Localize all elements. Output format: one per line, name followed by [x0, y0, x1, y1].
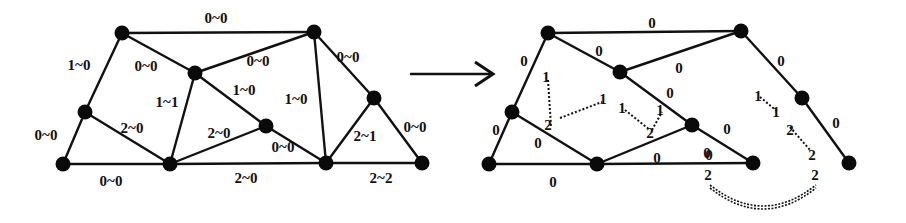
edge-label: 1~0 — [233, 82, 256, 98]
edge-label: 0~0 — [35, 127, 58, 143]
edge-label: 2~0 — [121, 120, 144, 136]
right-node-D — [505, 105, 520, 120]
marker-label: 2 — [704, 167, 712, 183]
double-dashed-arc — [710, 188, 816, 209]
left-edge-CF — [195, 73, 266, 126]
edge-label: 1~1 — [156, 94, 179, 110]
left-edge-DG — [63, 112, 85, 164]
edge-label: 0 — [675, 60, 683, 76]
marker-label: 2 — [646, 125, 654, 141]
edge-label: 0 — [666, 85, 674, 101]
left-edge-AD — [85, 33, 122, 112]
marker-label: 2 — [544, 117, 552, 133]
right-arrow-icon — [411, 62, 493, 86]
left-node-F — [259, 119, 274, 134]
left-node-C — [188, 66, 203, 81]
right-node-H — [590, 157, 605, 172]
edge-label: 0~0 — [135, 58, 158, 74]
edge-label: 0 — [648, 15, 656, 31]
left-node-D — [78, 105, 93, 120]
edge-label: 0 — [832, 115, 840, 131]
left-edge-HI — [170, 163, 326, 164]
left-node-G — [56, 157, 71, 172]
right-edge-DG — [489, 112, 512, 164]
edge-label: 0~0 — [337, 49, 360, 65]
left-edge-BI — [314, 32, 326, 163]
marker-label: 2 — [808, 147, 816, 163]
edge-label: 0 — [653, 150, 661, 166]
right-node-I — [746, 156, 761, 171]
right-edge-BE — [741, 31, 802, 98]
marker-label: 1 — [599, 91, 607, 107]
right-node-F — [685, 118, 700, 133]
right-edge-HF — [597, 125, 692, 164]
right-edge-AC — [548, 33, 620, 72]
right-edge-HI — [597, 163, 753, 164]
edge-label: 1~0 — [68, 57, 91, 73]
marker-label: 1 — [542, 69, 550, 85]
edge-label: 1~0 — [285, 91, 308, 107]
left-edge-AB — [122, 32, 314, 33]
left-node-I — [319, 156, 334, 171]
right-node-G — [482, 157, 497, 172]
edge-label: 0 — [595, 43, 603, 59]
left-graph-nodes — [56, 25, 430, 172]
marker-label: 2 — [786, 122, 794, 138]
edge-label: 0~0 — [205, 10, 228, 26]
right-node-E — [795, 91, 810, 106]
right-node-B — [734, 24, 749, 39]
edge-label: 2~2 — [370, 170, 393, 186]
edge-label: 0 — [534, 135, 542, 151]
right-graph-node-labels: 1211121122022 — [542, 69, 819, 183]
edge-label: 0 — [520, 53, 528, 69]
edge-label: 0 — [492, 122, 500, 138]
left-node-A — [115, 26, 130, 41]
marker-label: 0 — [703, 145, 711, 161]
right-edge-DH — [512, 112, 597, 164]
edge-label: 0 — [549, 174, 557, 190]
edge-label: 0 — [723, 121, 731, 137]
right-node-J — [842, 156, 857, 171]
marker-label: 1 — [772, 104, 780, 120]
marker-label: 1 — [754, 88, 762, 104]
double-dashed-arc — [710, 185, 816, 206]
edge-label: 2~1 — [354, 128, 377, 144]
left-node-E — [367, 91, 382, 106]
right-node-A — [541, 26, 556, 41]
edge-label: 0 — [777, 53, 785, 69]
edge-label: 2~0 — [235, 170, 258, 186]
left-node-B — [307, 25, 322, 40]
edge-label: 0~0 — [404, 119, 427, 135]
edge-label: 0~0 — [272, 139, 295, 155]
edge-label: 2~0 — [208, 125, 231, 141]
dashed-connector — [560, 102, 602, 118]
right-edge-AB — [548, 31, 741, 33]
edge-label: 0~0 — [247, 53, 270, 69]
left-node-J — [415, 156, 430, 171]
marker-label: 2 — [811, 167, 819, 183]
left-edge-AC — [122, 33, 195, 73]
marker-label: 1 — [618, 100, 626, 116]
marker-label: 1 — [656, 102, 664, 118]
graph-diagram: 0~00~01~00~00~01~01~11~00~02~02~00~02~10… — [0, 0, 906, 223]
edge-label: 0~0 — [100, 173, 123, 189]
left-edge-CH — [170, 73, 195, 164]
left-node-H — [163, 157, 178, 172]
left-edge-BE — [314, 32, 374, 98]
right-node-C — [613, 65, 628, 80]
right-graph-double-dashed-arc — [710, 185, 816, 209]
